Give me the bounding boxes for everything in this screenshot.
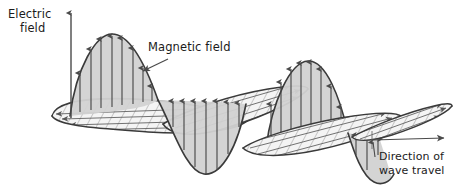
direction-label-line2: wave travel [379, 164, 445, 177]
magnetic-field-label: Magnetic field [148, 40, 231, 54]
electric-crest-1 [70, 34, 158, 116]
electric-trough-1 [158, 100, 246, 174]
electric-field-label-line1: Electric [8, 7, 51, 21]
direction-label-line1: Direction of [379, 150, 445, 163]
electromagnetic-wave-figure: Electric field Magnetic field Direction … [0, 0, 455, 189]
electric-field-label-line2: field [20, 21, 45, 35]
magnetic-pointer-arrow [143, 59, 168, 71]
wave-diagram-canvas: Electric field Magnetic field Direction … [0, 0, 455, 189]
